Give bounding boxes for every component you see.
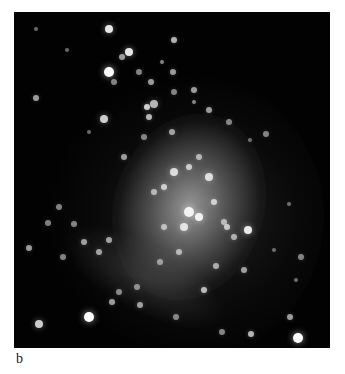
star	[161, 184, 167, 190]
star	[96, 249, 102, 255]
star	[157, 259, 163, 265]
star	[173, 314, 179, 320]
star	[116, 289, 122, 295]
star	[231, 234, 237, 240]
galaxy-arm	[48, 204, 240, 348]
star	[224, 224, 230, 230]
star	[106, 237, 112, 243]
star	[35, 320, 43, 328]
star	[248, 138, 252, 142]
star	[150, 100, 158, 108]
star	[160, 60, 164, 64]
star	[272, 248, 276, 252]
star	[169, 129, 175, 135]
star	[293, 333, 303, 343]
star	[170, 168, 178, 176]
star	[84, 312, 94, 322]
star	[65, 48, 69, 52]
star	[151, 189, 157, 195]
star	[201, 287, 207, 293]
star	[109, 299, 115, 305]
star	[287, 314, 293, 320]
star	[171, 89, 177, 95]
star	[248, 331, 254, 337]
star	[287, 202, 291, 206]
star	[136, 69, 142, 75]
star	[56, 204, 62, 210]
star	[104, 67, 114, 77]
star	[191, 87, 197, 93]
star	[186, 164, 192, 170]
star	[33, 95, 39, 101]
star	[170, 69, 176, 75]
star	[213, 263, 219, 269]
star	[241, 267, 247, 273]
star	[121, 154, 127, 160]
star	[26, 245, 32, 251]
star	[144, 104, 150, 110]
star	[192, 100, 196, 104]
star	[211, 199, 217, 205]
star	[100, 115, 108, 123]
star	[206, 107, 212, 113]
star	[87, 130, 91, 134]
star	[244, 226, 252, 234]
star	[184, 207, 194, 217]
galaxy-photograph	[14, 12, 330, 348]
star	[34, 27, 38, 31]
panel-label: b	[16, 351, 23, 367]
star	[119, 54, 125, 60]
star	[205, 173, 213, 181]
star	[125, 48, 133, 56]
star	[81, 239, 87, 245]
star	[171, 37, 177, 43]
star	[45, 220, 51, 226]
star	[161, 224, 167, 230]
star	[134, 284, 140, 290]
star	[180, 223, 188, 231]
star	[111, 79, 117, 85]
star	[146, 114, 152, 120]
star	[141, 134, 147, 140]
star	[137, 302, 143, 308]
star	[196, 154, 202, 160]
star	[226, 119, 232, 125]
star	[263, 131, 269, 137]
star	[219, 329, 225, 335]
star	[298, 254, 304, 260]
star	[105, 25, 113, 33]
star	[71, 221, 77, 227]
star	[195, 213, 203, 221]
star	[176, 249, 182, 255]
star	[294, 278, 298, 282]
star	[60, 254, 66, 260]
star	[148, 79, 154, 85]
